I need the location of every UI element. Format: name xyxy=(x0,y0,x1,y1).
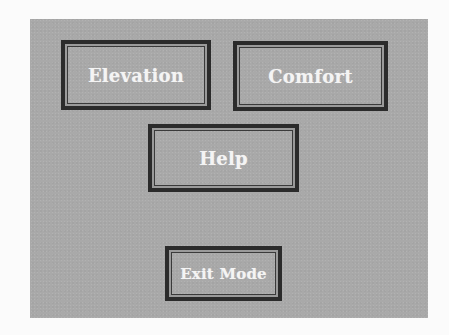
comfort-button-label: Comfort xyxy=(268,66,352,87)
mode-menu-panel: Elevation Comfort Help Exit Mode xyxy=(30,19,428,318)
exit-mode-button-label: Exit Mode xyxy=(180,265,267,283)
exit-mode-button[interactable]: Exit Mode xyxy=(165,246,282,301)
elevation-button[interactable]: Elevation xyxy=(61,40,211,110)
help-button[interactable]: Help xyxy=(148,124,299,192)
screen: Elevation Comfort Help Exit Mode xyxy=(0,0,449,335)
help-button-label: Help xyxy=(199,148,248,169)
comfort-button[interactable]: Comfort xyxy=(233,41,388,111)
elevation-button-label: Elevation xyxy=(88,65,184,86)
